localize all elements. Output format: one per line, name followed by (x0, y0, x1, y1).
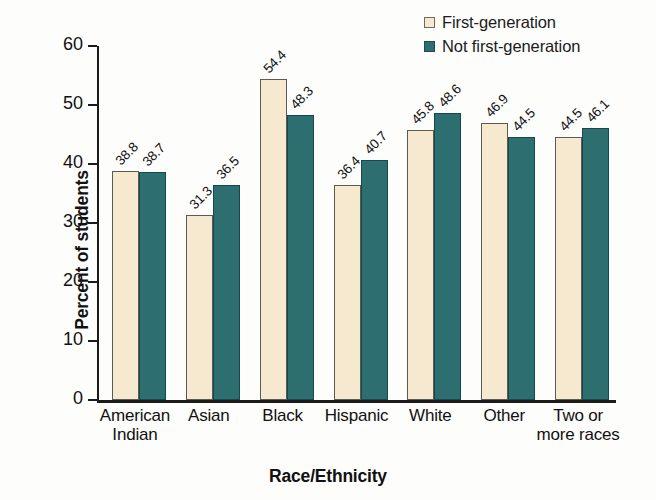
legend-swatch-first-generation (424, 17, 435, 28)
bar-value-label: 36.4 (334, 154, 363, 183)
bar-first-generation: 44.5 (555, 137, 582, 400)
y-axis-tick: 50 (88, 104, 97, 106)
bar-not-first-generation: 46.1 (582, 128, 609, 400)
bar-value-label: 48.6 (435, 82, 464, 111)
y-axis-tick: 30 (88, 222, 97, 224)
bar-value-label: 36.5 (214, 153, 243, 182)
bar-first-generation: 31.3 (186, 215, 213, 400)
y-axis-tick-label: 20 (63, 270, 83, 291)
bar-group: 54.448.3 (260, 46, 314, 400)
y-axis-tick: 60 (88, 45, 97, 47)
legend-label-first-generation: First-generation (442, 13, 556, 32)
category-label-line: Indian (75, 425, 195, 444)
x-axis-category-label: Two ormore races (518, 406, 638, 444)
y-axis-title: Percent of students (72, 170, 93, 330)
bar-value-label: 40.7 (361, 128, 390, 157)
bar-first-generation: 54.4 (260, 79, 287, 400)
bar-value-label: 44.5 (556, 106, 585, 135)
y-axis-tick: 0 (88, 399, 97, 401)
bar-value-label: 48.3 (288, 83, 317, 112)
y-axis-tick: 20 (88, 281, 97, 283)
bar-value-label: 38.7 (140, 140, 169, 169)
bar-value-label: 45.8 (408, 98, 437, 127)
bar-group: 31.336.5 (186, 46, 240, 400)
bar-value-label: 31.3 (187, 184, 216, 213)
legend-item-first-generation: First-generation (424, 12, 580, 32)
bar-group: 38.838.7 (112, 46, 166, 400)
y-axis-tick-label: 40 (63, 152, 83, 173)
bar-value-label: 46.9 (482, 92, 511, 121)
x-axis-title: Race/Ethnicity (0, 466, 656, 487)
bar-not-first-generation: 38.7 (139, 172, 166, 400)
bar-value-label: 54.4 (261, 47, 290, 76)
bar-not-first-generation: 48.6 (434, 113, 461, 400)
bar-not-first-generation: 44.5 (508, 137, 535, 400)
y-axis-tick: 40 (88, 163, 97, 165)
bar-group: 45.848.6 (407, 46, 461, 400)
bar-not-first-generation: 48.3 (287, 115, 314, 400)
y-axis-tick-label: 30 (63, 211, 83, 232)
bar-group: 44.546.1 (555, 46, 609, 400)
category-label-line: more races (518, 425, 638, 444)
category-label-line: Two or (518, 406, 638, 425)
bar-first-generation: 45.8 (407, 130, 434, 400)
bar-value-label: 44.5 (509, 106, 538, 135)
y-axis-tick-label: 50 (63, 93, 83, 114)
bar-not-first-generation: 40.7 (361, 160, 388, 400)
plot-area: 0102030405060 38.838.731.336.554.448.336… (98, 46, 615, 400)
bar-value-label: 38.8 (113, 139, 142, 168)
bar-chart: First-generation Not first-generation Pe… (0, 0, 656, 500)
bar-first-generation: 36.4 (334, 185, 361, 400)
y-axis-tick: 10 (88, 340, 97, 342)
bar-value-label: 46.1 (583, 96, 612, 125)
bar-first-generation: 46.9 (481, 123, 508, 400)
bar-group: 46.944.5 (481, 46, 535, 400)
y-axis-tick-label: 60 (63, 34, 83, 55)
y-axis-tick-label: 10 (63, 329, 83, 350)
bar-first-generation: 38.8 (112, 171, 139, 400)
bar-group: 36.440.7 (334, 46, 388, 400)
bar-not-first-generation: 36.5 (213, 185, 240, 400)
x-axis-line (97, 400, 616, 403)
